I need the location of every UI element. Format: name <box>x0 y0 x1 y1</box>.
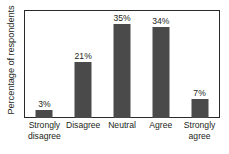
bar-slot: 21% <box>64 11 103 118</box>
x-tick-line2: agree <box>178 131 222 142</box>
x-tick-label-strongly-agree: Strongly agree <box>178 120 222 141</box>
bar-disagree[interactable] <box>75 62 92 118</box>
bar-value-label: 3% <box>38 100 50 109</box>
x-tick-label-disagree: Disagree <box>61 120 105 131</box>
bar-value-label: 35% <box>113 14 130 23</box>
y-axis-title-text: Percentage of respondents <box>6 5 16 114</box>
plot-area: 3% 21% 35% 34% 7% <box>25 11 219 118</box>
bar-chart-figure: Percentage of respondents 3% 21% 35% 34%… <box>0 0 229 154</box>
y-axis-title: Percentage of respondents <box>0 0 22 120</box>
x-tick-line1: Agree <box>149 120 172 130</box>
bar-value-label: 7% <box>193 89 205 98</box>
x-tick-label-agree: Agree <box>139 120 183 131</box>
x-tick-line1: Neutral <box>108 120 136 130</box>
bar-agree[interactable] <box>152 27 169 118</box>
bar-slot: 3% <box>25 11 64 118</box>
x-tick-line2: disagree <box>22 131 66 142</box>
x-tick-line1: Disagree <box>66 120 100 130</box>
x-axis-labels: Strongly disagree Disagree Neutral Agree… <box>25 120 219 152</box>
bar-slot: 34% <box>141 11 180 118</box>
x-tick-label-neutral: Neutral <box>100 120 144 131</box>
bar-strongly-agree[interactable] <box>191 99 208 118</box>
bar-value-label: 21% <box>75 52 92 61</box>
bar-slot: 35% <box>103 11 142 118</box>
x-tick-line1: Strongly <box>184 120 216 130</box>
x-tick-label-strongly-disagree: Strongly disagree <box>22 120 66 141</box>
bar-slot: 7% <box>180 11 219 118</box>
bar-value-label: 34% <box>152 17 169 26</box>
bar-strongly-disagree[interactable] <box>36 110 53 118</box>
x-tick-line1: Strongly <box>29 120 61 130</box>
bar-neutral[interactable] <box>113 24 130 118</box>
